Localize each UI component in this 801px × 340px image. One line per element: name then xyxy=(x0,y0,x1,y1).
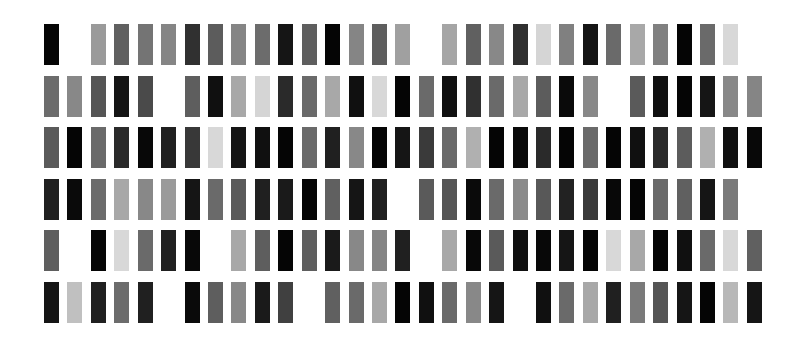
grid-bar xyxy=(231,179,246,220)
grid-bar xyxy=(91,127,106,168)
grid-bar xyxy=(466,282,481,323)
grid-bar xyxy=(349,127,364,168)
grid-bar xyxy=(302,179,317,220)
grid-bar xyxy=(114,282,129,323)
grid-bar xyxy=(67,179,82,220)
grid-bar xyxy=(536,179,551,220)
grid-bar xyxy=(231,282,246,323)
grid-bar xyxy=(559,179,574,220)
grid-bar xyxy=(278,24,293,65)
grid-bar xyxy=(677,76,692,117)
grid-bar xyxy=(349,179,364,220)
grid-bar xyxy=(630,179,645,220)
grid-bar xyxy=(630,230,645,271)
grid-bar xyxy=(44,76,59,117)
grid-bar xyxy=(325,230,340,271)
grid-bar xyxy=(653,179,668,220)
grid-bar xyxy=(138,282,153,323)
grid-bar xyxy=(700,24,715,65)
grid-bar xyxy=(536,76,551,117)
grid-bar xyxy=(536,127,551,168)
grid-bar xyxy=(747,230,762,271)
grid-bar xyxy=(466,127,481,168)
grid-bar xyxy=(442,76,457,117)
grid-bar xyxy=(630,24,645,65)
grid-bar xyxy=(44,24,59,65)
grid-bar xyxy=(325,282,340,323)
grid-bar xyxy=(747,76,762,117)
grid-bar xyxy=(442,24,457,65)
grid-bar xyxy=(302,230,317,271)
grid-bar xyxy=(185,179,200,220)
grid-bar xyxy=(513,230,528,271)
grid-bar xyxy=(536,282,551,323)
grid-bar xyxy=(559,127,574,168)
grid-bar xyxy=(466,24,481,65)
grid-bar xyxy=(349,282,364,323)
grid-bar xyxy=(653,127,668,168)
grid-bar xyxy=(419,282,434,323)
grid-bar xyxy=(513,76,528,117)
grid-bar xyxy=(395,230,410,271)
grid-bar xyxy=(185,230,200,271)
grid-bar xyxy=(114,24,129,65)
grayscale-bar-grid xyxy=(0,0,801,340)
grid-bar xyxy=(208,24,223,65)
grid-bar xyxy=(513,24,528,65)
grid-bar xyxy=(606,179,621,220)
grid-bar xyxy=(44,179,59,220)
grid-bar xyxy=(208,76,223,117)
grid-bar xyxy=(349,24,364,65)
grid-bar xyxy=(395,127,410,168)
grid-bar xyxy=(489,76,504,117)
grid-bar xyxy=(513,179,528,220)
grid-bar xyxy=(325,179,340,220)
grid-bar xyxy=(723,282,738,323)
grid-bar xyxy=(114,230,129,271)
grid-bar xyxy=(395,24,410,65)
grid-bar xyxy=(723,127,738,168)
grid-bar xyxy=(231,127,246,168)
grid-bar xyxy=(466,230,481,271)
grid-bar xyxy=(185,76,200,117)
grid-bar xyxy=(372,282,387,323)
grid-bar xyxy=(700,76,715,117)
grid-bar xyxy=(114,127,129,168)
grid-bar xyxy=(559,24,574,65)
grid-bar xyxy=(723,230,738,271)
grid-bar xyxy=(372,76,387,117)
grid-bar xyxy=(536,24,551,65)
grid-bar xyxy=(302,76,317,117)
grid-bar xyxy=(653,282,668,323)
grid-bar xyxy=(349,76,364,117)
grid-bar xyxy=(419,76,434,117)
grid-bar xyxy=(723,76,738,117)
grid-bar xyxy=(138,230,153,271)
grid-bar xyxy=(723,24,738,65)
grid-bar xyxy=(395,76,410,117)
grid-bar xyxy=(91,179,106,220)
grid-bar xyxy=(278,230,293,271)
grid-bar xyxy=(44,127,59,168)
grid-bar xyxy=(583,127,598,168)
grid-bar xyxy=(278,282,293,323)
grid-bar xyxy=(372,127,387,168)
grid-bar xyxy=(302,127,317,168)
grid-bar xyxy=(677,24,692,65)
grid-bar xyxy=(489,127,504,168)
grid-bar xyxy=(419,179,434,220)
grid-bar xyxy=(138,179,153,220)
grid-bar xyxy=(185,127,200,168)
grid-bar xyxy=(325,76,340,117)
grid-bar xyxy=(677,230,692,271)
grid-bar xyxy=(653,24,668,65)
grid-bar xyxy=(747,282,762,323)
grid-bar xyxy=(67,76,82,117)
grid-bar xyxy=(700,282,715,323)
grid-bar xyxy=(138,24,153,65)
grid-bar xyxy=(466,76,481,117)
grid-bar xyxy=(278,179,293,220)
grid-bar xyxy=(442,179,457,220)
grid-bar xyxy=(723,179,738,220)
grid-bar xyxy=(231,24,246,65)
